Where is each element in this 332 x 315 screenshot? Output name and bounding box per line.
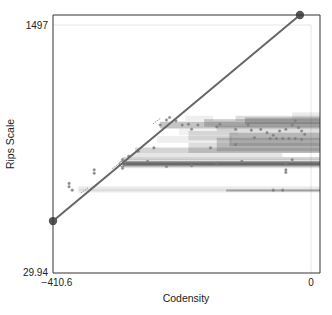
data-point[interactable] [247, 124, 250, 127]
data-point[interactable] [300, 130, 303, 133]
data-point[interactable] [209, 147, 212, 150]
data-point[interactable] [285, 162, 288, 165]
data-point[interactable] [285, 128, 288, 131]
data-point[interactable] [241, 160, 244, 163]
data-point[interactable] [285, 169, 288, 172]
data-point[interactable] [297, 126, 300, 129]
data-point[interactable] [93, 169, 96, 172]
x-axis-label: Codensity [163, 292, 210, 304]
data-point[interactable] [190, 128, 193, 131]
data-point[interactable] [165, 165, 168, 168]
data-point[interactable] [219, 123, 222, 126]
data-point[interactable] [291, 124, 294, 127]
data-point[interactable] [215, 162, 218, 165]
data-point[interactable] [266, 131, 269, 134]
data-point[interactable] [168, 116, 171, 119]
barcode-rectangle [179, 128, 238, 135]
data-point[interactable] [303, 133, 306, 136]
data-point[interactable] [68, 182, 71, 185]
data-point[interactable] [190, 164, 193, 167]
data-point[interactable] [146, 160, 149, 163]
data-point[interactable] [294, 120, 297, 123]
x-tick-min: −410.6 [42, 277, 73, 288]
data-point[interactable] [281, 137, 284, 140]
barcode-rectangle [122, 162, 320, 165]
data-point[interactable] [285, 171, 288, 174]
data-point[interactable] [68, 185, 71, 188]
data-point[interactable] [187, 123, 190, 126]
y-axis-label: Rips Scale [4, 119, 16, 169]
data-point[interactable] [275, 137, 278, 140]
data-point[interactable] [159, 124, 162, 127]
data-point[interactable] [253, 136, 256, 139]
data-point[interactable] [272, 134, 275, 137]
data-point[interactable] [165, 119, 168, 122]
data-point[interactable] [272, 189, 275, 192]
data-point[interactable] [259, 128, 262, 131]
data-point[interactable] [281, 189, 284, 192]
data-point[interactable] [93, 172, 96, 175]
y-tick-max: 1497 [26, 20, 49, 31]
chart: 1497 29.94 −410.6 0 Codensity Rips Scale [0, 0, 332, 315]
x-tick-max: 0 [308, 277, 314, 288]
data-point[interactable] [197, 124, 200, 127]
data-point[interactable] [288, 137, 291, 140]
data-point[interactable] [234, 128, 237, 131]
data-point[interactable] [71, 189, 74, 192]
data-point[interactable] [294, 137, 297, 140]
data-point[interactable] [278, 130, 281, 133]
barcode-rectangle [122, 157, 320, 160]
data-point[interactable] [250, 129, 253, 132]
data-point[interactable] [181, 124, 184, 127]
barcode-rectangle [185, 116, 213, 121]
data-point[interactable] [234, 143, 237, 146]
data-point[interactable] [300, 138, 303, 141]
barcode-rectangle [132, 153, 282, 157]
data-point[interactable] [269, 137, 272, 140]
data-point[interactable] [121, 158, 124, 161]
data-point[interactable] [121, 167, 124, 170]
data-point[interactable] [215, 125, 218, 128]
data-point[interactable] [291, 158, 294, 161]
barcode-rectangle [292, 112, 320, 119]
data-point[interactable] [153, 147, 156, 150]
barcode-rectangle [157, 136, 232, 143]
